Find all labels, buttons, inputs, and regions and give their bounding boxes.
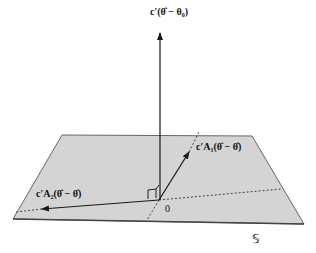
label-plane: 𝕊 (252, 232, 260, 247)
label-vector-a2: c′A₂(θ̂ − θ̂) (36, 188, 81, 199)
label-vector-a1: c′A₁(θ̂ − θ̂) (196, 141, 241, 152)
diagram-canvas (0, 0, 316, 253)
label-vertical-vector: c′(θ̂ − θ₀) (150, 6, 188, 17)
plane-s (13, 135, 304, 224)
label-origin: 0 (165, 203, 170, 214)
